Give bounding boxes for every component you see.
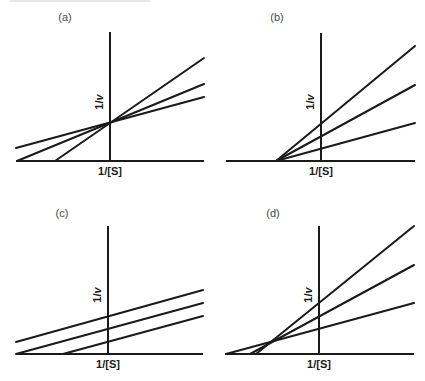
y-axis-label-prefix: 1/ xyxy=(304,100,316,109)
y-axis-label: 1/v xyxy=(304,93,316,109)
x-axis-label: 1/[S] xyxy=(309,165,333,177)
panel-c: (c)1/[S]1/v xyxy=(16,207,203,370)
panel-label: (b) xyxy=(270,11,283,23)
panel-label: (d) xyxy=(266,207,279,219)
y-axis-label-var: v xyxy=(304,93,316,100)
y-axis-label: 1/v xyxy=(93,93,105,109)
x-axis-label: 1/[S] xyxy=(307,358,331,370)
panel-a: (a)1/[S]1/v xyxy=(16,11,204,177)
panel-b: (b)1/[S]1/v xyxy=(226,11,415,177)
plot-line-2 xyxy=(276,85,415,161)
y-axis-label-var: v xyxy=(93,93,105,100)
y-axis-label-var: v xyxy=(302,286,314,293)
plot-line-1 xyxy=(276,123,415,161)
y-axis-label: 1/v xyxy=(91,286,103,302)
y-axis-label-prefix: 1/ xyxy=(93,100,105,109)
panel-d: (d)1/[S]1/v xyxy=(225,207,414,370)
y-axis-label-prefix: 1/ xyxy=(302,293,314,302)
inhibition-plots-figure: (a)1/[S]1/v(b)1/[S]1/v(c)1/[S]1/v(d)1/[S… xyxy=(0,0,425,381)
y-axis-label-var: v xyxy=(91,286,103,293)
x-axis-label: 1/[S] xyxy=(96,358,120,370)
y-axis-label-prefix: 1/ xyxy=(91,293,103,302)
plot-line-3 xyxy=(276,46,415,161)
plot-line-3 xyxy=(55,58,204,161)
panel-label: (c) xyxy=(56,207,69,219)
x-axis-label: 1/[S] xyxy=(98,165,122,177)
plot-line-2 xyxy=(16,303,203,354)
plot-line-3 xyxy=(256,226,414,354)
panel-label: (a) xyxy=(58,11,71,23)
plot-line-1 xyxy=(16,290,203,342)
y-axis-label: 1/v xyxy=(302,286,314,302)
panels-container: (a)1/[S]1/v(b)1/[S]1/v(c)1/[S]1/v(d)1/[S… xyxy=(16,11,415,370)
